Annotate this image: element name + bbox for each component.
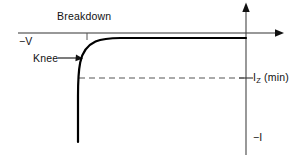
horizontal-axis (18, 29, 284, 37)
horizontal-axis-arrowhead (275, 29, 284, 37)
zener-characteristic-figure: Breakdown −V Knee IZ (min) −I (0, 0, 299, 163)
iz-min-qualifier: (min) (261, 71, 289, 83)
breakdown-label: Breakdown (57, 11, 111, 22)
negative-i-axis-label: −I (253, 132, 262, 143)
zener-curve (78, 38, 246, 142)
knee-arrow (58, 55, 83, 62)
vertical-axis (242, 3, 249, 156)
vertical-axis-arrowhead (242, 3, 249, 13)
iz-min-subscript: Z (256, 76, 261, 85)
negative-v-axis-label: −V (19, 36, 33, 47)
knee-label: Knee (33, 53, 58, 64)
iz-min-label: IZ (min) (253, 72, 289, 83)
